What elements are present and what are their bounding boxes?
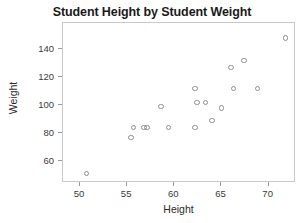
x-tick-mark <box>268 182 269 186</box>
data-point <box>192 125 197 130</box>
x-tick-label: 50 <box>64 188 94 199</box>
x-tick-label: 65 <box>205 188 235 199</box>
scatter-chart: Student Height by Student Weight Weight … <box>0 0 304 223</box>
chart-title: Student Height by Student Weight <box>0 5 304 19</box>
y-tick-label: 80 <box>24 127 54 138</box>
y-axis-label: Weight <box>7 68 19 128</box>
data-point <box>194 100 199 105</box>
data-point <box>228 65 233 70</box>
x-tick-mark <box>79 182 80 186</box>
y-tick-label: 140 <box>24 43 54 54</box>
data-point <box>131 125 136 130</box>
x-tick-mark <box>126 182 127 186</box>
data-point <box>144 125 149 130</box>
data-point <box>166 125 171 130</box>
data-point <box>241 58 246 63</box>
y-tick-label: 100 <box>24 99 54 110</box>
data-point <box>84 171 89 176</box>
data-point <box>283 35 288 40</box>
y-tick-label: 120 <box>24 71 54 82</box>
y-tick-label: 60 <box>24 155 54 166</box>
data-point <box>255 86 260 91</box>
data-points-layer <box>63 23 294 181</box>
x-tick-label: 60 <box>158 188 188 199</box>
x-tick-mark <box>220 182 221 186</box>
data-point <box>219 105 224 110</box>
data-point <box>192 86 197 91</box>
data-point <box>128 135 133 140</box>
data-point <box>158 104 163 109</box>
x-tick-label: 55 <box>111 188 141 199</box>
x-tick-mark <box>173 182 174 186</box>
data-point <box>231 86 236 91</box>
plot-area <box>62 22 295 182</box>
data-point <box>209 118 214 123</box>
data-point <box>203 100 208 105</box>
x-axis-label: Height <box>62 203 295 215</box>
x-tick-label: 70 <box>253 188 283 199</box>
